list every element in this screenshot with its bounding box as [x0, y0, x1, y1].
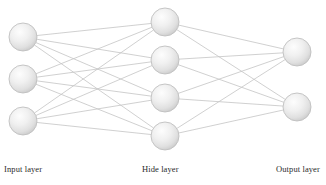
- hidden-node-1: [151, 8, 179, 36]
- output-layer-label: Output layer: [276, 164, 320, 174]
- connection-edge: [36, 43, 152, 93]
- input-node-2: [9, 65, 37, 93]
- connection-edge: [179, 53, 283, 59]
- output-node-2: [283, 93, 311, 121]
- output-layer-nodes: [283, 38, 311, 121]
- connection-edge: [37, 23, 151, 35]
- connection-edge: [34, 30, 153, 113]
- edges-hidden-to-output: [177, 25, 285, 133]
- connection-edge: [179, 110, 284, 133]
- hidden-node-3: [151, 84, 179, 112]
- connection-edge: [179, 99, 283, 106]
- hidden-node-2: [151, 46, 179, 74]
- connection-edge: [37, 100, 151, 119]
- network-graphic: [0, 0, 326, 185]
- output-node-1: [283, 38, 311, 66]
- input-node-3: [9, 107, 37, 135]
- connection-edge: [36, 27, 152, 74]
- connection-edge: [36, 84, 152, 131]
- input-layer-nodes: [9, 23, 37, 135]
- hidden-node-4: [151, 122, 179, 150]
- input-layer-label: Input layer: [4, 164, 42, 174]
- connection-edge: [36, 66, 152, 116]
- connection-edge: [177, 30, 285, 100]
- input-node-1: [9, 23, 37, 51]
- connection-edge: [37, 81, 151, 96]
- hidden-layer-nodes: [151, 8, 179, 150]
- connection-edge: [37, 62, 151, 77]
- neural-network-diagram: Input layer Hide layer Output layer: [0, 0, 326, 185]
- connection-edge: [34, 45, 153, 128]
- connection-edge: [179, 25, 284, 49]
- connection-edge: [37, 39, 151, 58]
- hidden-layer-label: Hide layer: [142, 164, 179, 174]
- connection-edge: [37, 122, 151, 134]
- edges-input-to-hidden: [34, 23, 153, 134]
